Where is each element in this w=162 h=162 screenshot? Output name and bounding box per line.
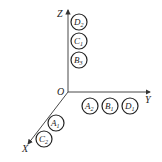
z-circle-2: C1 [71,33,87,49]
z-circle-3: B3 [71,52,87,68]
y-axis-label: Y [145,94,152,105]
origin-label: O [57,86,64,97]
z-axis-label: Z [57,8,63,19]
z-circle-1: D2 [71,14,87,30]
x-circle-1: A1 [48,115,64,131]
coordinate-diagram: Z Y X O D2 C1 B3 A2 B1 D1 [0,0,162,162]
y-circle-1: A2 [82,98,98,114]
y-circle-3: D1 [122,98,138,114]
x-axis-label: X [21,143,29,154]
y-circle-2: B1 [102,98,118,114]
x-circle-2: C2 [36,131,52,147]
